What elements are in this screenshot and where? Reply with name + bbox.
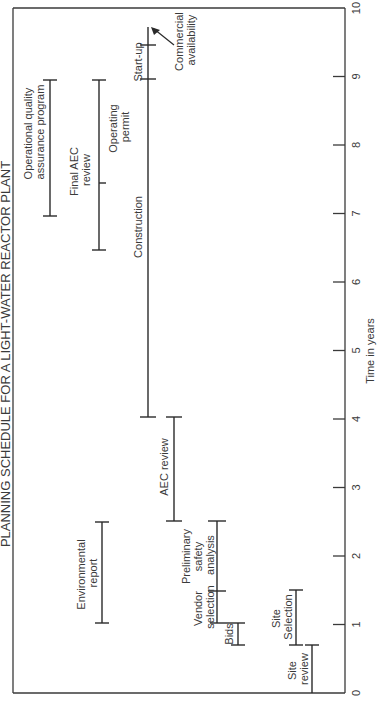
chart-title: PLANNING SCHEDULE FOR A LIGHT-WATER REAC…: [0, 161, 13, 547]
tick-label-8: 8: [350, 142, 362, 148]
label-site-selection: Site Selection: [270, 594, 294, 639]
label-environmental-report: Environmental report: [75, 536, 99, 609]
x-axis-label: Time in years: [364, 318, 376, 384]
x-axis-tick-labels: 0 1 2 3 4 5 6 7 8 9 10: [350, 2, 362, 696]
label-final-aec-review: Final AEC review: [68, 144, 92, 196]
label-aec-review: AEC review: [158, 438, 170, 496]
commercial-availability-arrow: [151, 27, 174, 45]
tick-label-9: 9: [350, 73, 362, 79]
label-preliminary-safety: Preliminary safety analysis: [180, 526, 216, 584]
bar-final-aec-operating-permit: [92, 80, 106, 250]
tick-label-7: 7: [350, 210, 362, 216]
tick-label-2: 2: [350, 553, 362, 559]
label-vendor-selection: Vendor selection: [192, 585, 216, 628]
chart-stage: PLANNING SCHEDULE FOR A LIGHT-WATER REAC…: [0, 0, 377, 707]
tick-label-6: 6: [350, 279, 362, 285]
tick-label-5: 5: [350, 347, 362, 353]
tick-label-4: 4: [350, 416, 362, 422]
tick-label-10: 10: [350, 2, 362, 14]
label-operating-permit: Operating permit: [107, 101, 131, 152]
tick-label-1: 1: [350, 621, 362, 627]
label-construction: Construction: [132, 196, 144, 258]
tick-label-0: 0: [350, 690, 362, 696]
schedule-chart: PLANNING SCHEDULE FOR A LIGHT-WATER REAC…: [0, 0, 377, 707]
task-labels: Site review Site Selection Bids Vendor s…: [22, 9, 310, 685]
label-commercial-availability: Commercial availability: [173, 9, 197, 71]
tick-label-3: 3: [350, 484, 362, 490]
label-bids: Bids: [223, 623, 235, 645]
label-start-up: Start-up: [132, 42, 144, 81]
x-axis-ticks: [333, 77, 345, 625]
label-site-review: Site review: [286, 653, 310, 685]
label-operational-qa: Operational quality assurance program: [22, 85, 46, 180]
